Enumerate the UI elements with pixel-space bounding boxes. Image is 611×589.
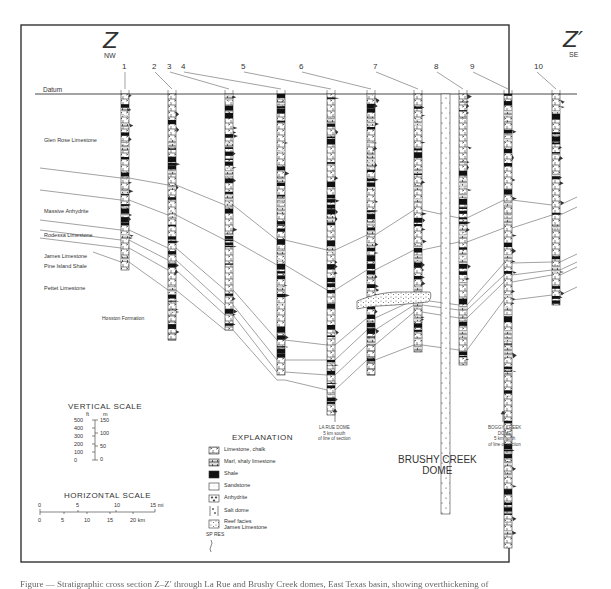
legend-item-label: Marl, shaly limestone — [224, 459, 276, 465]
vscale-m-tick: 50 — [100, 443, 106, 449]
legend-item-label: Sandstone — [224, 483, 250, 489]
brushy-creek-line1: BRUSHY CREEK — [398, 454, 477, 465]
well-number-1: 1 — [122, 62, 126, 71]
leader-line-9 — [473, 72, 508, 89]
legend-item-label: Salt dome — [224, 508, 249, 514]
well-column-10 — [552, 90, 565, 305]
well-column-8 — [459, 90, 472, 365]
figure-frame — [21, 25, 509, 562]
well-columns — [121, 90, 565, 548]
well-number-10: 10 — [534, 62, 543, 71]
vscale-ft-tick: 400 — [74, 425, 83, 431]
well-number-6: 6 — [299, 62, 303, 71]
well-leader-lines — [125, 72, 556, 89]
leader-line-4 — [184, 72, 281, 89]
section-end-direction: SE — [569, 51, 578, 58]
correlation-line-5 — [40, 238, 577, 375]
well-number-3: 3 — [167, 62, 171, 71]
brushy-creek-line2: DOME — [398, 465, 477, 476]
section-end-letter: Z′ — [563, 27, 583, 52]
hscale-km-tick: 0 — [38, 517, 41, 523]
leader-line-10 — [537, 72, 556, 89]
swatch-sandstone — [209, 483, 219, 490]
well-number-8: 8 — [434, 62, 438, 71]
la-rue-dome-label: LA RUE DOME 5 km south of line of sectio… — [318, 425, 351, 442]
well-number-9: 9 — [470, 62, 474, 71]
legend-item-label: Anhydrite — [224, 495, 247, 501]
well-column-2 — [168, 90, 180, 340]
cross-section-figure — [0, 0, 611, 589]
boggy-creek-line4: of line of section — [488, 442, 521, 448]
vscale-ft-tick: 100 — [74, 449, 83, 455]
formation-rodessa: Rodessa Limestone — [44, 232, 93, 238]
well-column-1 — [121, 90, 134, 270]
section-start-direction: NW — [104, 52, 116, 59]
correlation-line-3 — [40, 220, 577, 345]
hscale-km-tick: 10 — [84, 517, 90, 523]
la-rue-line1: LA RUE DOME — [318, 425, 351, 431]
hscale-mi-tick: 0 — [38, 502, 41, 508]
la-rue-line3: of line of section — [318, 436, 351, 442]
well-column-4 — [277, 90, 290, 375]
well-number-2: 2 — [152, 62, 156, 71]
hscale-km-tick: 20 km — [130, 517, 145, 523]
formation-massive-anhydrite: Massive Anhydrite — [44, 208, 89, 214]
vscale-ft-tick: 200 — [74, 441, 83, 447]
correlation-lines — [40, 168, 577, 390]
horizontal-scale-title: HORIZONTAL SCALE — [64, 491, 151, 500]
vscale-m-tick: 0 — [100, 456, 103, 462]
well-column-3 — [225, 90, 238, 330]
brushy-creek-dome-label: BRUSHY CREEK DOME — [398, 454, 477, 476]
leader-line-7 — [376, 72, 418, 89]
swatch-marl — [209, 459, 219, 466]
boggy-creek-line1: BOGGY CREEK — [488, 425, 521, 431]
leader-line-5 — [244, 72, 331, 89]
sp-res-log-glyph — [210, 540, 212, 552]
hscale-km-tick: 5 — [61, 517, 64, 523]
vscale-m-tick: 150 — [100, 417, 109, 423]
formation-james: James Limestone — [44, 253, 87, 259]
vscale-ft-tick: 300 — [74, 433, 83, 439]
well-number-5: 5 — [241, 62, 245, 71]
formation-pettet: Pettet Limestone — [44, 285, 85, 291]
vertical-scale-title: VERTICAL SCALE — [68, 402, 142, 411]
vscale-ft-tick: 0 — [74, 457, 77, 463]
swatch-reef — [209, 520, 219, 528]
vscale-ft-tick: 500 — [74, 417, 83, 423]
boggy-creek-dome-label: BOGGY CREEK DOME 5 km north of line of s… — [488, 425, 521, 447]
explanation-title: EXPLANATION — [232, 433, 293, 442]
formation-glen-rose: Glen Rose Limestone — [44, 137, 97, 143]
hscale-mi-tick: 15 mi — [150, 502, 163, 508]
formation-hosston: Hosston Formation — [102, 315, 144, 321]
vscale-m-tick: 100 — [100, 430, 109, 436]
legend-item-label: Limestone, chalk — [224, 447, 265, 453]
hscale-km-tick: 15 — [107, 517, 113, 523]
vertical-scale-bar — [92, 420, 98, 460]
section-start-letter: Z — [103, 28, 118, 53]
swatch-salt-dome — [210, 506, 218, 516]
dome-arrows — [333, 409, 505, 422]
correlation-line-1 — [40, 168, 577, 250]
datum-label: Datum — [43, 86, 62, 93]
swatch-shale — [209, 471, 219, 478]
well-column-5 — [327, 90, 339, 415]
hscale-mi-tick: 5 — [76, 502, 79, 508]
leader-line-2 — [155, 72, 172, 89]
formation-pine-island: Pine Island Shale — [44, 263, 87, 269]
horizontal-scale-bar — [40, 509, 155, 515]
correlation-line-4 — [40, 230, 577, 360]
swatch-limestone — [209, 447, 219, 454]
well-number-4: 4 — [181, 62, 185, 71]
hscale-mi-tick: 10 — [114, 502, 120, 508]
leader-line-8 — [437, 72, 463, 89]
well-column-6 — [367, 90, 380, 375]
leader-line-6 — [302, 72, 371, 89]
legend-item-label: Reef facies James Limestone — [224, 519, 267, 530]
legend-item-label: Shale — [224, 471, 238, 477]
vertical-scale-ft-unit: ft — [86, 411, 89, 417]
well-number-7: 7 — [373, 62, 377, 71]
sp-res-label: SP RES — [206, 531, 224, 537]
well-column-9 — [504, 90, 517, 548]
brushy-creek-salt-column — [441, 94, 450, 514]
figure-caption: Figure — Stratigraphic cross section Z–Z… — [20, 579, 489, 589]
